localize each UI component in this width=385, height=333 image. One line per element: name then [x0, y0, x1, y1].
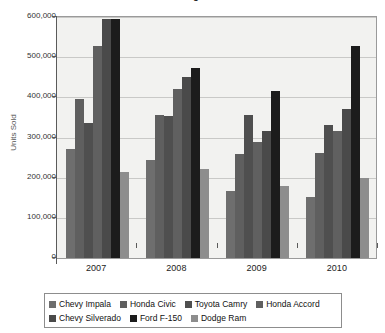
bar	[66, 149, 75, 258]
x-tick-mark	[56, 243, 57, 248]
bar-group-2009	[218, 17, 298, 258]
y-tick-label: 200,000	[0, 172, 56, 181]
bar-group-2007	[57, 17, 137, 258]
bar	[360, 178, 369, 258]
bar	[342, 109, 351, 258]
legend-swatch-icon	[256, 301, 263, 308]
x-tick-mark	[377, 243, 378, 248]
bar	[155, 115, 164, 258]
legend-row: Chevy SilveradoFord F-150Dodge Ram	[49, 311, 337, 325]
bar	[173, 89, 182, 258]
x-tick-mark	[136, 243, 137, 248]
y-tick-mark	[52, 177, 56, 178]
legend-swatch-icon	[49, 315, 56, 322]
y-tick-mark	[52, 96, 56, 97]
y-tick-mark	[52, 257, 56, 258]
bar	[226, 191, 235, 258]
x-tick-label-2008: 2008	[136, 263, 216, 273]
legend-item-honda-civic[interactable]: Honda Civic	[120, 299, 176, 309]
y-tick-mark	[52, 56, 56, 57]
y-tick-label: 300,000	[0, 132, 56, 141]
legend-label: Chevy Silverado	[59, 313, 121, 323]
y-tick-label: 400,000	[0, 91, 56, 100]
y-tick-label: 600,000	[0, 11, 56, 20]
bar	[111, 19, 120, 258]
x-tick-mark	[217, 243, 218, 248]
y-tick-label: 100,000	[0, 212, 56, 221]
y-axis-line	[56, 16, 57, 264]
legend-label: Honda Accord	[266, 299, 319, 309]
legend-item-chevy-silverado[interactable]: Chevy Silverado	[49, 313, 121, 323]
x-tick-label-2007: 2007	[56, 263, 136, 273]
bar	[315, 153, 324, 258]
legend-swatch-icon	[130, 315, 137, 322]
bar	[182, 77, 191, 258]
bar	[75, 99, 84, 258]
legend-swatch-icon	[49, 301, 56, 308]
x-tick-mark	[297, 243, 298, 248]
legend-label: Ford F-150	[140, 313, 182, 323]
legend-row: Chevy ImpalaHonda CivicToyota CamryHonda…	[49, 297, 337, 311]
bar	[351, 46, 360, 258]
y-tick-label: 0	[0, 252, 56, 261]
legend-item-chevy-impala[interactable]: Chevy Impala	[49, 299, 111, 309]
bar	[253, 142, 262, 258]
legend-item-honda-accord[interactable]: Honda Accord	[256, 299, 319, 309]
bar	[235, 154, 244, 258]
legend-item-ford-f-150[interactable]: Ford F-150	[130, 313, 182, 323]
bar-chart: Annual Best-Selling Cars and Trucks Unit…	[0, 0, 385, 333]
bar	[324, 125, 333, 258]
bar	[306, 197, 315, 258]
y-tick-mark	[52, 137, 56, 138]
bar	[84, 123, 93, 258]
bar-group-2008	[137, 17, 217, 258]
y-tick-mark	[52, 217, 56, 218]
bar	[333, 131, 342, 258]
legend-swatch-icon	[120, 301, 127, 308]
y-tick-mark	[52, 16, 56, 17]
legend-swatch-icon	[185, 301, 192, 308]
bar	[244, 115, 253, 258]
bar-group-2010	[298, 17, 378, 258]
legend-item-dodge-ram[interactable]: Dodge Ram	[191, 313, 246, 323]
legend-label: Chevy Impala	[59, 299, 111, 309]
x-tick-label-2010: 2010	[297, 263, 377, 273]
bar	[271, 91, 280, 258]
legend-label: Dodge Ram	[201, 313, 246, 323]
legend-label: Honda Civic	[130, 299, 176, 309]
bar	[93, 46, 102, 258]
legend-item-toyota-camry[interactable]: Toyota Camry	[185, 299, 247, 309]
bar	[262, 131, 271, 258]
legend-label: Toyota Camry	[195, 299, 247, 309]
bar	[191, 68, 200, 258]
chart-title: Annual Best-Selling Cars and Trucks	[0, 0, 385, 1]
bar	[164, 116, 173, 258]
x-tick-label-2009: 2009	[217, 263, 297, 273]
bar	[280, 186, 289, 258]
plot-area	[56, 16, 377, 259]
y-tick-label: 500,000	[0, 51, 56, 60]
chart-legend: Chevy ImpalaHonda CivicToyota CamryHonda…	[44, 293, 342, 328]
bar	[146, 160, 155, 258]
bar	[120, 172, 129, 258]
legend-swatch-icon	[191, 315, 198, 322]
bar	[200, 169, 209, 258]
bar	[102, 19, 111, 258]
